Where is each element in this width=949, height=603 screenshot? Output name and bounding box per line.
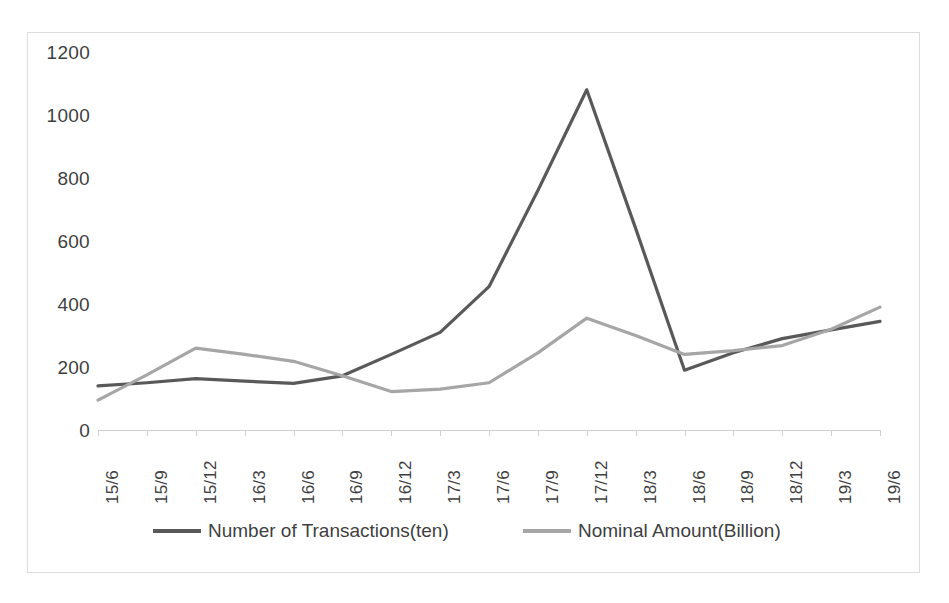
series-lines	[98, 52, 880, 430]
x-axis-tick-label: 16/3	[251, 470, 268, 504]
x-axis-labels: 15/615/915/1216/316/616/916/1217/317/617…	[98, 440, 880, 510]
plot-area	[98, 52, 880, 430]
x-axis-tick-mark	[880, 430, 881, 436]
series-line	[98, 307, 880, 400]
legend-swatch-icon	[153, 529, 201, 533]
x-axis-tick-label: 18/6	[691, 470, 708, 504]
legend-label: Number of Transactions(ten)	[208, 521, 449, 541]
x-axis-tick-mark	[831, 430, 832, 436]
x-axis-tick-label: 18/12	[788, 460, 805, 504]
x-axis-tick-label: 17/6	[495, 470, 512, 504]
series-line	[98, 90, 880, 386]
legend-item[interactable]: Number of Transactions(ten)	[153, 518, 449, 544]
x-axis-tick-mark	[245, 430, 246, 436]
y-axis-tick-label: 1200	[30, 43, 90, 62]
x-axis-tick-mark	[587, 430, 588, 436]
x-axis-tick-label: 16/9	[348, 470, 365, 504]
x-axis-tick-label: 16/12	[397, 460, 414, 504]
y-axis-tick-label: 400	[30, 295, 90, 314]
x-axis-tick-mark	[636, 430, 637, 436]
legend-label: Nominal Amount(Billion)	[578, 521, 781, 541]
x-axis-tick-mark	[733, 430, 734, 436]
x-axis-tick-mark	[147, 430, 148, 436]
x-axis-tick-label: 15/9	[153, 470, 170, 504]
x-axis-tick-label: 17/9	[544, 470, 561, 504]
legend-swatch-icon	[523, 529, 571, 533]
x-axis-tick-label: 19/3	[837, 470, 854, 504]
x-axis-tick-mark	[538, 430, 539, 436]
chart-container: 020040060080010001200 15/615/915/1216/31…	[0, 0, 949, 603]
x-axis-tick-label: 15/6	[104, 470, 121, 504]
x-axis-tick-mark	[782, 430, 783, 436]
x-axis-tick-label: 18/3	[642, 470, 659, 504]
x-axis-tick-mark	[489, 430, 490, 436]
y-axis-tick-label: 600	[30, 232, 90, 251]
chart-legend: Number of Transactions(ten)Nominal Amoun…	[98, 518, 858, 552]
x-axis-tick-mark	[196, 430, 197, 436]
x-axis-tick-mark	[440, 430, 441, 436]
x-axis-tick-mark	[391, 430, 392, 436]
x-axis-tick-mark	[342, 430, 343, 436]
y-axis-tick-label: 1000	[30, 106, 90, 125]
y-axis-tick-label: 800	[30, 169, 90, 188]
x-axis-tick-label: 17/12	[593, 460, 610, 504]
y-axis-tick-label: 0	[30, 421, 90, 440]
x-axis-tick-label: 17/3	[446, 470, 463, 504]
y-axis: 020040060080010001200	[30, 40, 90, 442]
x-axis-tick-label: 16/6	[300, 470, 317, 504]
y-axis-tick-label: 200	[30, 358, 90, 377]
x-axis-tick-label: 18/9	[739, 470, 756, 504]
x-axis-tick-label: 19/6	[886, 470, 903, 504]
x-axis-tick-label: 15/12	[202, 460, 219, 504]
x-axis-tick-mark	[98, 430, 99, 436]
x-axis-tick-mark	[294, 430, 295, 436]
legend-item[interactable]: Nominal Amount(Billion)	[523, 518, 781, 544]
x-axis-tick-mark	[685, 430, 686, 436]
